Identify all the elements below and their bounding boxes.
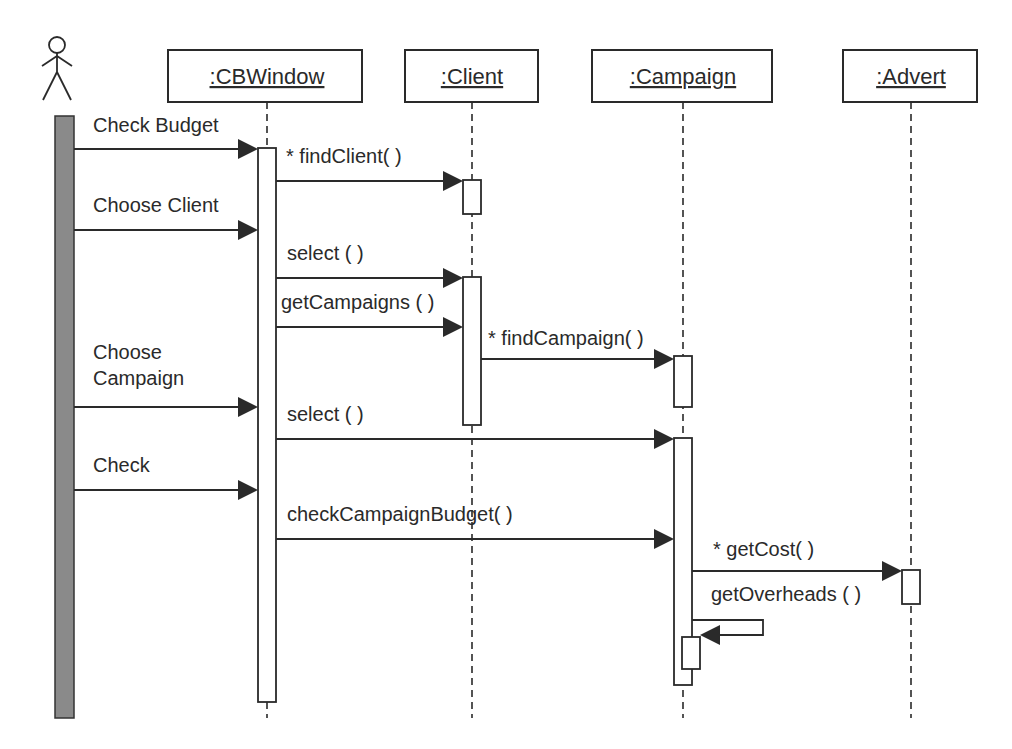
message-get-cost[interactable]: * getCost( ) (692, 538, 902, 581)
message-check-campaign-budget[interactable]: checkCampaignBudget( ) (276, 503, 674, 549)
activation-client-1 (463, 180, 481, 214)
message-select-client[interactable]: select ( ) (276, 242, 463, 288)
activation-campaign-nested (682, 637, 700, 669)
message-label: Check (93, 454, 151, 476)
arrowhead-icon (238, 397, 258, 417)
message-find-client[interactable]: * findClient( ) (276, 145, 463, 191)
object-label-advert: :Advert (876, 64, 946, 89)
arrowhead-icon (238, 220, 258, 240)
activation-advert (902, 570, 920, 604)
arrowhead-icon (654, 529, 674, 549)
message-choose-client[interactable]: Choose Client (74, 194, 258, 240)
message-label: select ( ) (287, 403, 364, 425)
message-label-line-2: Campaign (93, 367, 184, 389)
arrowhead-icon (443, 171, 463, 191)
message-check[interactable]: Check (74, 454, 258, 500)
message-get-overheads[interactable]: getOverheads ( ) (692, 583, 861, 645)
activation-client-2 (463, 277, 481, 425)
arrowhead-icon (238, 139, 258, 159)
message-find-campaign[interactable]: * findCampaign( ) (481, 327, 674, 369)
object-cbwindow[interactable]: :CBWindow (168, 50, 362, 102)
object-label-cbwindow: :CBWindow (210, 64, 325, 89)
message-label-line-1: Choose (93, 341, 162, 363)
message-label: Choose Campaign (93, 341, 184, 389)
object-label-campaign: :Campaign (630, 64, 736, 89)
actor-activation-bar (55, 116, 74, 718)
message-label: checkCampaignBudget( ) (287, 503, 513, 525)
actor-icon (42, 37, 72, 100)
message-label: getCampaigns ( ) (281, 291, 434, 313)
activation-campaign-1 (674, 356, 692, 407)
message-choose-campaign[interactable]: Choose Campaign (74, 341, 258, 417)
arrowhead-icon (238, 480, 258, 500)
arrowhead-icon (443, 317, 463, 337)
message-label: * getCost( ) (713, 538, 814, 560)
message-label: * findClient( ) (286, 145, 402, 167)
arrowhead-icon (882, 561, 902, 581)
object-campaign[interactable]: :Campaign (592, 50, 772, 102)
message-label: Check Budget (93, 114, 219, 136)
message-check-budget[interactable]: Check Budget (74, 114, 258, 159)
message-get-campaigns[interactable]: getCampaigns ( ) (276, 291, 463, 337)
activation-cbwindow (258, 148, 276, 702)
arrowhead-icon (700, 625, 720, 645)
message-label: select ( ) (287, 242, 364, 264)
object-client[interactable]: :Client (405, 50, 538, 102)
arrowhead-icon (654, 429, 674, 449)
sequence-diagram: :CBWindow :Client :Campaign :Advert Chec… (0, 0, 1012, 749)
object-advert[interactable]: :Advert (843, 50, 977, 102)
message-label: getOverheads ( ) (711, 583, 861, 605)
message-label: Choose Client (93, 194, 219, 216)
arrowhead-icon (443, 268, 463, 288)
object-label-client: :Client (441, 64, 503, 89)
arrowhead-icon (654, 349, 674, 369)
message-label: * findCampaign( ) (488, 327, 644, 349)
